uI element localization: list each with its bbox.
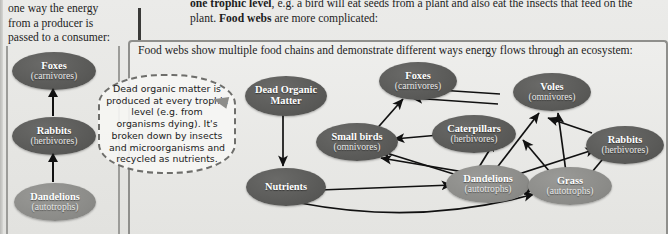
page-canvas: one way the energy from a producer is pa…	[0, 0, 668, 234]
web-node-dead-organic-matter[interactable]: Dead Organic Matter	[245, 76, 327, 116]
web-node-grass-role: (autotrophs)	[547, 186, 594, 196]
web-node-foxes[interactable]: Foxes (carnivores)	[379, 62, 457, 100]
dead-organic-matter-callout: Dead organic matter is produced at every…	[98, 74, 236, 174]
web-node-foxes-role: (carnivores)	[395, 81, 441, 91]
web-node-dead-organic-matter-role: Matter	[270, 96, 301, 107]
web-node-dandelions-role: (autotrophs)	[465, 184, 512, 194]
web-node-rabbits-role: (herbivores)	[602, 145, 649, 155]
web-node-caterpillars-role: (herbivores)	[451, 134, 498, 144]
web-node-dandelions[interactable]: Dandelions (autotrophs)	[446, 165, 530, 203]
web-node-voles[interactable]: Voles (omnivores)	[513, 73, 591, 111]
web-node-rabbits[interactable]: Rabbits (herbivores)	[586, 126, 664, 164]
web-node-nutrients[interactable]: Nutrients	[246, 168, 326, 206]
web-node-small-birds-role: (omnivores)	[334, 142, 381, 152]
web-node-voles-role: (omnivores)	[529, 92, 576, 102]
web-node-grass[interactable]: Grass (autotrophs)	[528, 167, 612, 205]
web-node-small-birds[interactable]: Small birds (omnivores)	[316, 123, 398, 161]
web-node-caterpillars[interactable]: Caterpillars (herbivores)	[432, 115, 516, 153]
web-node-nutrients-label: Nutrients	[265, 182, 307, 193]
